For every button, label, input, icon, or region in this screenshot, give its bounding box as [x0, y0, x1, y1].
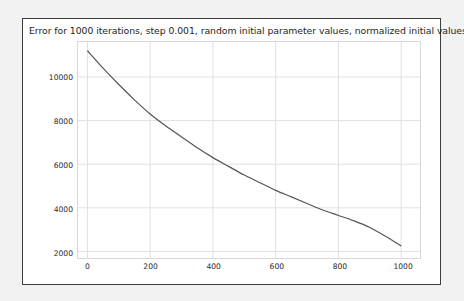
y-tick-label: 2000 — [54, 249, 73, 258]
plot-area: 200040006000800010000 02004006008001000 — [77, 41, 421, 259]
chart-screenshot: Error for 1000 iterations, step 0.001, r… — [0, 0, 464, 301]
y-tick-label: 4000 — [54, 205, 73, 214]
figure-panel: Error for 1000 iterations, step 0.001, r… — [22, 18, 441, 285]
error-curve — [78, 42, 420, 258]
y-tick-label: 6000 — [54, 161, 73, 170]
x-tick-label: 400 — [206, 262, 221, 271]
x-tick-label: 0 — [85, 262, 90, 271]
x-tick-label: 200 — [143, 262, 158, 271]
x-tick-label: 600 — [270, 262, 285, 271]
y-tick-label: 8000 — [54, 117, 73, 126]
series-line — [87, 51, 401, 246]
x-tick-label: 800 — [333, 262, 348, 271]
x-tick-label: 1000 — [393, 262, 412, 271]
chart-title: Error for 1000 iterations, step 0.001, r… — [29, 25, 436, 37]
y-tick-label: 10000 — [49, 73, 73, 82]
